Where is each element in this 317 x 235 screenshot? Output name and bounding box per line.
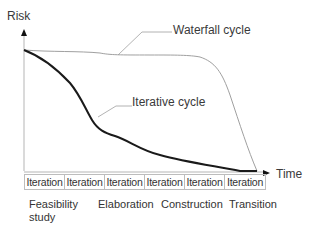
iteration-box: Iteration xyxy=(65,175,105,189)
phase-elaboration: Elaboration xyxy=(98,198,154,210)
phase-feasibility-line2: study xyxy=(29,211,55,223)
x-axis-label: Time xyxy=(276,168,302,180)
iterative-curve xyxy=(24,50,257,171)
y-axis-arrow-icon xyxy=(21,29,27,36)
iteration-box: Iteration xyxy=(145,175,185,189)
y-axis-label: Risk xyxy=(7,10,30,22)
waterfall-curve xyxy=(24,50,257,171)
waterfall-leader-line xyxy=(118,32,172,55)
iterative-leader-line xyxy=(98,106,132,117)
waterfall-cycle-label: Waterfall cycle xyxy=(173,24,251,36)
iteration-box: Iteration xyxy=(105,175,145,189)
iteration-box: Iteration xyxy=(25,175,65,189)
phase-feasibility-line1: Feasibility xyxy=(29,198,78,210)
phase-transition: Transition xyxy=(229,198,277,210)
iteration-box: Iteration xyxy=(225,175,265,189)
phase-construction: Construction xyxy=(161,198,223,210)
iterative-cycle-label: Iterative cycle xyxy=(132,96,205,108)
iteration-row: Iteration Iteration Iteration Iteration … xyxy=(24,174,266,190)
iteration-box: Iteration xyxy=(185,175,225,189)
